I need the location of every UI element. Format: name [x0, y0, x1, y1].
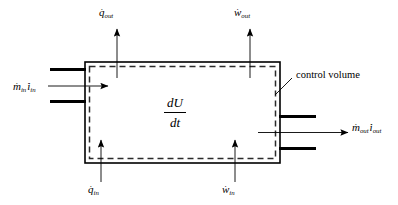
fraction-numerator: dU: [164, 95, 186, 112]
dot-accent-q-in: .: [90, 180, 92, 189]
label-control-volume: control volume: [296, 70, 360, 81]
label-work-out: .wout: [234, 7, 250, 18]
label-mass-inlet: .min .iin: [13, 81, 36, 92]
control-volume-diagram: [0, 0, 398, 205]
storage-term-fraction: dU dt: [164, 95, 186, 131]
label-heat-in: .qin: [88, 184, 99, 195]
dot-accent-i-in: .: [28, 77, 30, 86]
label-work-in: .win: [222, 184, 235, 195]
control-volume-leader-line: [275, 78, 292, 95]
dot-accent-i-out: .: [370, 118, 372, 127]
dot-accent-w-out: .: [237, 3, 239, 12]
label-heat-out: .qout: [99, 7, 113, 18]
fraction-bar: [164, 112, 186, 113]
dot-accent-q-out: .: [101, 3, 103, 12]
diagram-canvas: .qout .wout .qin .win .min .iin .mout .i…: [0, 0, 398, 205]
fraction-denominator: dt: [164, 114, 186, 131]
dot-accent-m-in: .: [16, 77, 18, 86]
dot-accent-m-out: .: [355, 118, 357, 127]
label-mass-outlet: .mout .iout: [352, 122, 381, 133]
dot-accent-w-in: .: [225, 180, 227, 189]
